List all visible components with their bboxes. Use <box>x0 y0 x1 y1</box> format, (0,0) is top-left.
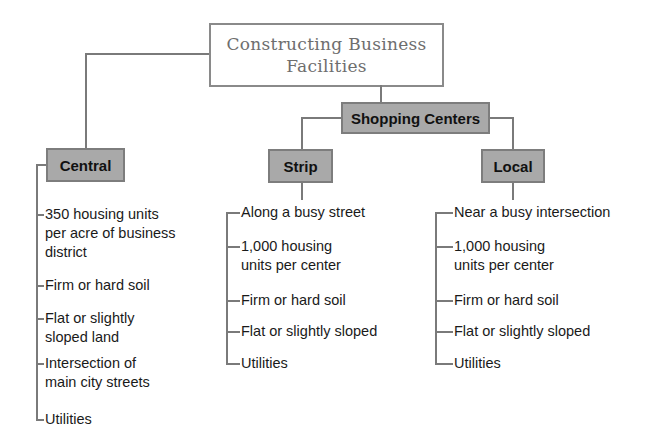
central-tick-1 <box>36 214 44 216</box>
local-item-soil: Firm or hard soil <box>454 291 559 310</box>
central-item-intersection: Intersection of main city streets <box>45 354 150 392</box>
local-tick-4 <box>435 331 453 333</box>
local-item-intersection-line1: Near a busy intersection <box>454 203 610 222</box>
local-item-sloped: Flat or slightly sloped <box>454 322 590 341</box>
local-item-soil-line1: Firm or hard soil <box>454 291 559 310</box>
central-item-land-line2: sloped land <box>45 328 134 347</box>
connector-shopping-to-local-v <box>512 117 514 149</box>
strip-item-sloped: Flat or slightly sloped <box>241 322 377 341</box>
strip-tick-3 <box>226 300 240 302</box>
node-shopping-centers-label: Shopping Centers <box>351 110 480 127</box>
connector-shopping-to-strip-h <box>301 117 341 119</box>
local-item-housing: 1,000 housing units per center <box>454 237 554 275</box>
local-tick-2 <box>435 246 453 248</box>
central-item-housing: 350 housing units per acre of business d… <box>45 205 176 262</box>
local-item-sloped-line1: Flat or slightly sloped <box>454 322 590 341</box>
local-item-housing-line2: units per center <box>454 256 554 275</box>
central-item-intersection-line2: main city streets <box>45 373 150 392</box>
local-bracket-spine <box>435 212 437 365</box>
central-item-land-line1: Flat or slightly <box>45 309 134 328</box>
local-tick-5 <box>435 363 453 365</box>
strip-item-soil-line1: Firm or hard soil <box>241 291 346 310</box>
local-tick-1 <box>435 212 453 214</box>
connector-shopping-to-local-h <box>490 117 514 119</box>
connector-root-to-central-h <box>85 53 209 55</box>
central-item-soil: Firm or hard soil <box>45 276 150 295</box>
central-item-utilities-line1: Utilities <box>45 410 92 429</box>
central-item-housing-line1: 350 housing units <box>45 205 176 224</box>
local-item-utilities: Utilities <box>454 354 501 373</box>
central-item-utilities: Utilities <box>45 410 92 429</box>
strip-stub <box>301 183 303 200</box>
central-item-housing-line2: per acre of business <box>45 224 176 243</box>
node-local-label: Local <box>493 158 532 175</box>
local-item-utilities-line1: Utilities <box>454 354 501 373</box>
local-item-housing-line1: 1,000 housing <box>454 237 554 256</box>
strip-tick-4 <box>226 331 240 333</box>
central-item-soil-line1: Firm or hard soil <box>45 276 150 295</box>
strip-item-housing-line1: 1,000 housing <box>241 237 341 256</box>
strip-tick-5 <box>226 363 240 365</box>
strip-item-street: Along a busy street <box>241 203 365 222</box>
root-title-line1: Constructing Business <box>226 33 426 55</box>
node-central-label: Central <box>60 157 112 174</box>
strip-item-housing: 1,000 housing units per center <box>241 237 341 275</box>
root-node-constructing-business-facilities: Constructing Business Facilities <box>209 23 444 87</box>
strip-item-sloped-line1: Flat or slightly sloped <box>241 322 377 341</box>
connector-root-to-shopping <box>380 85 382 103</box>
strip-tick-1 <box>226 212 240 214</box>
strip-item-soil: Firm or hard soil <box>241 291 346 310</box>
node-central: Central <box>46 148 125 182</box>
connector-root-to-central-v <box>85 53 87 148</box>
node-local: Local <box>481 149 545 183</box>
central-bracket-spine <box>36 164 38 421</box>
local-item-intersection: Near a busy intersection <box>454 203 610 222</box>
central-tick-2 <box>36 285 44 287</box>
connector-shopping-to-strip-v <box>301 117 303 149</box>
strip-bracket-spine <box>226 212 228 365</box>
strip-item-street-line1: Along a busy street <box>241 203 365 222</box>
central-item-housing-line3: district <box>45 243 176 262</box>
strip-item-housing-line2: units per center <box>241 256 341 275</box>
central-item-land: Flat or slightly sloped land <box>45 309 134 347</box>
local-stub <box>512 183 514 200</box>
node-shopping-centers: Shopping Centers <box>341 102 490 134</box>
strip-tick-2 <box>226 246 240 248</box>
central-tick-4 <box>36 363 44 365</box>
central-item-intersection-line1: Intersection of <box>45 354 150 373</box>
central-tick-5 <box>36 419 44 421</box>
central-tick-3 <box>36 318 44 320</box>
root-title-line2: Facilities <box>226 55 426 77</box>
local-tick-3 <box>435 300 453 302</box>
node-strip-label: Strip <box>283 158 317 175</box>
node-strip: Strip <box>268 149 333 183</box>
strip-item-utilities: Utilities <box>241 354 288 373</box>
strip-item-utilities-line1: Utilities <box>241 354 288 373</box>
